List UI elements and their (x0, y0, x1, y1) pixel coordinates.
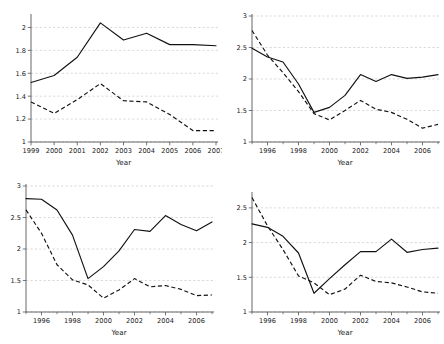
y-tick-label: 1.2 (16, 115, 27, 123)
y-tick-label: 1.5 (11, 277, 22, 285)
x-tick-label: 1998 (64, 317, 81, 325)
y-tick-label: 1.4 (16, 93, 27, 101)
y-tick-label: 1 (22, 138, 26, 146)
x-tick-label: 2000 (46, 147, 63, 155)
series-line-solid (252, 48, 438, 112)
y-tick-label: 2 (243, 239, 247, 247)
x-tick-label: 2007 (208, 147, 222, 155)
y-tick-label: 2 (243, 75, 247, 83)
x-tick-label: 2000 (95, 317, 112, 325)
y-tick-label: 2.5 (11, 214, 22, 222)
x-tick-label: 1996 (33, 317, 50, 325)
x-tick-label: 2006 (414, 147, 431, 155)
y-tick-label: 2 (22, 24, 26, 32)
x-tick-label: 2004 (383, 147, 400, 155)
y-tick-label: 1.5 (237, 107, 248, 115)
series-line-dashed (252, 197, 438, 294)
y-tick-label: 2.5 (237, 44, 248, 52)
y-tick-label: 2 (17, 245, 21, 253)
y-tick-label: 1.8 (16, 47, 27, 55)
y-tick-label: 3 (17, 182, 21, 190)
x-tick-label: 2006 (188, 317, 205, 325)
chart-svg-bottom-right: 11.522.5199619982000200220042006Year (222, 172, 444, 344)
x-axis-title: Year (336, 158, 352, 167)
x-axis-title: Year (115, 158, 131, 167)
chart-svg-top-left: 11.21.41.61.8219992000200120022003200420… (0, 0, 222, 172)
x-tick-label: 2001 (69, 147, 86, 155)
x-axis-title: Year (336, 328, 352, 337)
x-tick-label: 2003 (115, 147, 132, 155)
x-tick-label: 1999 (23, 147, 40, 155)
chart-panel-bottom-right: 11.522.5199619982000200220042006Year (222, 172, 444, 344)
x-tick-label: 2002 (126, 317, 143, 325)
series-line-dashed (31, 84, 216, 131)
y-tick-label: 1 (17, 308, 21, 316)
figure-panel-grid: 11.21.41.61.8219992000200120022003200420… (0, 0, 444, 344)
y-tick-label: 1 (243, 308, 247, 316)
x-tick-label: 2004 (138, 147, 155, 155)
x-tick-label: 1998 (290, 147, 307, 155)
chart-panel-top-right: 11.522.53199619982000200220042006Year (222, 0, 444, 172)
chart-panel-bottom-left: 11.522.53199619982000200220042006Year (0, 172, 222, 344)
x-tick-label: 2002 (352, 147, 369, 155)
x-tick-label: 2005 (161, 147, 178, 155)
x-tick-label: 1996 (259, 317, 276, 325)
series-line-dashed (252, 30, 438, 128)
y-tick-label: 3 (243, 12, 247, 20)
x-tick-label: 1996 (259, 147, 276, 155)
x-tick-label: 2002 (92, 147, 109, 155)
y-tick-label: 1.6 (16, 70, 27, 78)
x-tick-label: 2006 (414, 317, 431, 325)
y-tick-label: 2.5 (237, 204, 248, 212)
series-line-dashed (26, 210, 212, 298)
x-tick-label: 2000 (321, 317, 338, 325)
x-tick-label: 2004 (157, 317, 174, 325)
x-axis-title: Year (110, 328, 126, 337)
chart-svg-bottom-left: 11.522.53199619982000200220042006Year (0, 172, 222, 344)
x-tick-label: 2004 (383, 317, 400, 325)
x-tick-label: 1998 (290, 317, 307, 325)
y-tick-label: 1 (243, 138, 247, 146)
series-line-solid (252, 224, 438, 293)
chart-svg-top-right: 11.522.53199619982000200220042006Year (222, 0, 444, 172)
y-tick-label: 1.5 (237, 274, 248, 282)
x-tick-label: 2006 (184, 147, 201, 155)
x-tick-label: 2000 (321, 147, 338, 155)
series-line-solid (26, 199, 212, 279)
chart-panel-top-left: 11.21.41.61.8219992000200120022003200420… (0, 0, 222, 172)
x-tick-label: 2002 (352, 317, 369, 325)
